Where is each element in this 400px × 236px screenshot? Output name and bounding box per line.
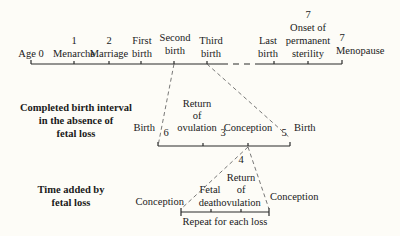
branch-number-4: 4 [238, 154, 243, 166]
fetal-loss-title-l2: fetal loss [52, 197, 91, 209]
birth-interval-title-l1: Completed birth interval [20, 102, 132, 114]
event-menarche-number: 1 [71, 35, 76, 47]
event-age-0: Age 0 [18, 48, 43, 60]
event-sterility-l1: Onset of [290, 22, 326, 34]
birth-interval-title-l2: in the absence of [39, 115, 113, 127]
interval-end-birth: Birth [294, 122, 316, 134]
event-second-birth-l2: birth [165, 45, 185, 57]
repeat-bracket-label: Repeat for each loss [183, 216, 268, 228]
fetal-death-l2: death [199, 197, 222, 209]
event-menarche: Menarche [53, 48, 95, 60]
interval-start-birth: Birth [133, 122, 155, 134]
event-first-birth-l2: birth [132, 48, 152, 60]
loss-return-l1: Return [227, 172, 256, 184]
event-sterility-number: 7 [305, 9, 310, 21]
event-sterility-l2: permanent [286, 35, 330, 47]
loss-start-conception: Conception [136, 196, 184, 208]
loss-return-l2: of [237, 184, 246, 196]
event-first-birth-l1: First [132, 35, 151, 47]
event-menopause-number: 7 [339, 32, 344, 44]
event-marriage: Marriage [90, 48, 128, 60]
event-menopause: Menopause [336, 45, 384, 57]
return-ovulation-l3: ovulation [177, 122, 217, 134]
event-last-birth-l2: birth [258, 48, 278, 60]
birth-interval-title-l3: fetal loss [57, 128, 96, 140]
segment-number-5: 5 [281, 127, 286, 139]
event-third-birth-l2: birth [201, 48, 221, 60]
return-ovulation-l1: Return [183, 98, 212, 110]
fetal-loss-title-l1: Time added by [38, 184, 105, 196]
event-marriage-number: 2 [106, 35, 111, 47]
event-second-birth-l1: Second [160, 32, 191, 44]
segment-number-6: 6 [163, 127, 168, 139]
event-third-birth-l1: Third [199, 35, 222, 47]
event-last-birth-l1: Last [259, 35, 277, 47]
interval-conception: Conception [224, 122, 272, 134]
loss-return-l3: ovulation [221, 197, 261, 209]
return-ovulation-l2: of [193, 110, 202, 122]
loss-end-conception: Conception [270, 191, 318, 203]
fetal-death-l1: Fetal [200, 184, 221, 196]
event-sterility-l3: sterility [292, 48, 324, 60]
